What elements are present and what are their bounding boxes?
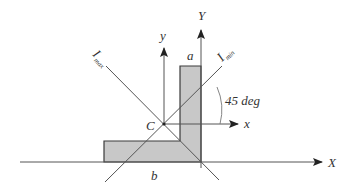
b-dimension-label: b	[151, 168, 158, 183]
centroid-point	[162, 122, 165, 125]
Y-axis-label: Y	[198, 8, 207, 23]
centroid-label: C	[146, 118, 155, 133]
angle-label: 45 deg	[225, 93, 261, 108]
l-section-diagram: Y X y x C a b 45 deg I max I min	[0, 0, 356, 189]
svg-text:max: max	[92, 56, 107, 71]
angle-arc	[217, 87, 222, 124]
X-axis-label: X	[327, 155, 337, 170]
I-max-label: I max	[88, 46, 113, 71]
I-min-label: I min	[213, 42, 237, 66]
I-max-axis-line	[106, 66, 219, 180]
diagram-canvas: Y X y x C a b 45 deg I max I min	[0, 0, 356, 189]
x-axis-label: x	[243, 116, 250, 131]
y-axis-label: y	[158, 28, 166, 43]
a-dimension-label: a	[187, 48, 194, 63]
